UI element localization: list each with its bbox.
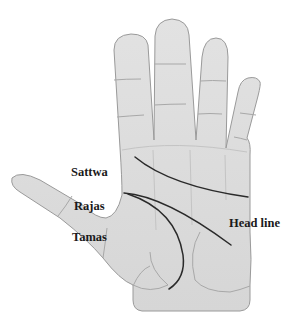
label-tamas: Tamas bbox=[72, 231, 107, 244]
label-sattwa: Sattwa bbox=[71, 166, 108, 179]
palm-diagram bbox=[0, 0, 301, 331]
label-rajas: Rajas bbox=[74, 200, 105, 213]
label-head-line: Head line bbox=[229, 217, 280, 230]
hand-outline bbox=[12, 19, 261, 311]
